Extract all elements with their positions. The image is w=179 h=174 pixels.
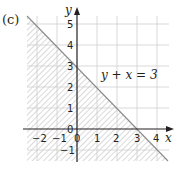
x-tick-label: 3 bbox=[134, 133, 140, 144]
y-tick-label: 2 bbox=[67, 82, 73, 93]
y-tick-label: 1 bbox=[67, 103, 73, 114]
x-tick-label: 2 bbox=[113, 133, 119, 144]
x-tick-label: −2 bbox=[32, 133, 47, 144]
y-axis-label: y bbox=[64, 3, 72, 17]
y-tick-label: 4 bbox=[67, 40, 73, 51]
inequality-graph: x y −2 −1 0 1 2 3 4 −1 0 1 2 3 4 5 y + x… bbox=[0, 0, 179, 174]
panel-label: (c) bbox=[2, 12, 19, 27]
x-axis-label: x bbox=[165, 131, 172, 145]
x-tick-label: 4 bbox=[153, 133, 159, 144]
y-axis-arrow-icon bbox=[74, 7, 80, 15]
x-tick-label: −1 bbox=[52, 133, 67, 144]
equation-label: y + x = 3 bbox=[100, 68, 158, 82]
x-tick-labels: −2 −1 0 1 2 3 4 bbox=[32, 133, 159, 144]
y-tick-label: −1 bbox=[60, 145, 75, 156]
y-tick-label: 3 bbox=[67, 61, 73, 72]
y-tick-label: 0 bbox=[67, 124, 73, 135]
x-tick-label: 1 bbox=[94, 133, 100, 144]
y-tick-label: 5 bbox=[67, 19, 73, 30]
x-tick-label: 0 bbox=[74, 133, 80, 144]
